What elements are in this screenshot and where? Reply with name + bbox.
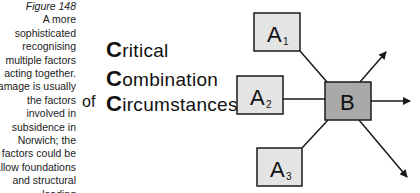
arrow-upper-right: [360, 52, 386, 82]
node-subscript: 2: [266, 99, 272, 110]
edge-a3-b: [302, 120, 328, 148]
node-a2: A 2: [237, 76, 283, 114]
node-letter: A: [270, 157, 285, 182]
node-a1: A 1: [254, 13, 300, 51]
node-letter: A: [267, 22, 282, 47]
edge-a1-b: [300, 51, 327, 82]
node-letter: B: [340, 90, 355, 115]
node-subscript: 1: [283, 36, 289, 47]
causal-diagram: A 1 A 2 B A 3: [0, 0, 420, 193]
arrow-lower-right: [359, 120, 407, 177]
node-b: B: [325, 82, 371, 120]
node-subscript: 3: [286, 171, 292, 182]
node-letter: A: [250, 85, 265, 110]
node-a3: A 3: [257, 148, 302, 186]
